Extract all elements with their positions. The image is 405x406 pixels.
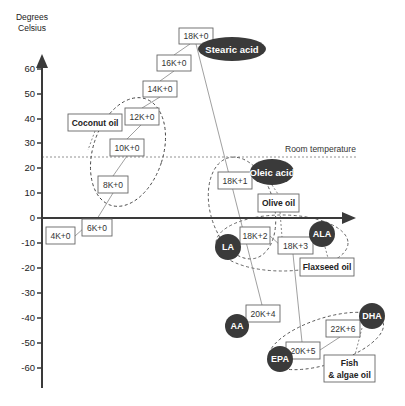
tick-label: -40 bbox=[21, 312, 35, 323]
tick-label: 60 bbox=[24, 63, 35, 74]
chain-label: 14K+0 bbox=[148, 84, 173, 94]
acid-label-ala: ALA bbox=[313, 229, 332, 239]
acid-label-oleic: Oleic acid bbox=[250, 167, 295, 178]
chain-label: 20K+4 bbox=[251, 309, 276, 319]
chain-label: 4K+0 bbox=[50, 231, 70, 241]
acid-label-dha: DHA bbox=[362, 311, 382, 321]
oil-label-olive: Olive oil bbox=[262, 198, 295, 208]
chain-label: 22K+6 bbox=[331, 324, 356, 334]
chain-label: 18K+3 bbox=[283, 241, 308, 251]
tick-label: 30 bbox=[24, 137, 35, 148]
oil-label-flaxseed: Flaxseed oil bbox=[303, 262, 352, 272]
axis-title-line1: Degrees bbox=[16, 12, 48, 22]
oil-label-coconut: Coconut oil bbox=[72, 118, 119, 128]
fatty-acid-melting-point-diagram: Degrees Celsius Room temperature bbox=[0, 0, 405, 406]
chain-label: 12K+0 bbox=[130, 112, 155, 122]
acid-label-epa: EPA bbox=[271, 354, 289, 364]
tick-label: 0 bbox=[30, 212, 35, 223]
tick-label: -10 bbox=[21, 237, 35, 248]
chain-label: 18K+0 bbox=[184, 31, 209, 41]
chain-label: 18K+2 bbox=[243, 231, 268, 241]
chain-label: 6K+0 bbox=[87, 223, 107, 233]
chain-label: 20K+5 bbox=[291, 346, 316, 356]
tick-label: -50 bbox=[21, 337, 35, 348]
chain-label: 18K+1 bbox=[223, 176, 248, 186]
chain-label: 8K+0 bbox=[103, 180, 123, 190]
chain-label: 10K+0 bbox=[115, 143, 140, 153]
tick-label: 10 bbox=[24, 187, 35, 198]
acid-label-stearic: Stearic acid bbox=[205, 44, 259, 55]
tick-label: 20 bbox=[24, 162, 35, 173]
tick-label: -20 bbox=[21, 262, 35, 273]
y-axis-tick-labels: 60 50 40 30 20 10 0 -10 -20 -30 -40 -50 … bbox=[21, 63, 35, 373]
room-temperature-label: Room temperature bbox=[285, 144, 356, 154]
oil-label-fish-line1: Fish bbox=[341, 358, 358, 368]
chain-connectors bbox=[75, 44, 340, 350]
tick-label: -30 bbox=[21, 287, 35, 298]
tick-label: 40 bbox=[24, 113, 35, 124]
axis-title-line2: Celsius bbox=[18, 23, 46, 33]
oil-label-fish-line2: & algae oil bbox=[328, 370, 371, 380]
chain-label: 16K+0 bbox=[162, 58, 187, 68]
acid-label-aa: AA bbox=[231, 321, 244, 331]
tick-label: 50 bbox=[24, 88, 35, 99]
tick-label: -60 bbox=[21, 362, 35, 373]
acid-label-la: LA bbox=[222, 242, 234, 252]
